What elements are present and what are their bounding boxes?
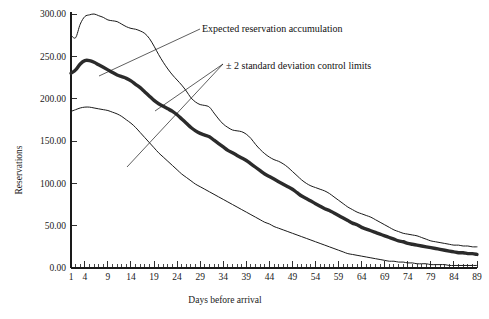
y-axis-tick-labels: 0.0050.00100.00150.00200.00250.00300.00 — [40, 9, 66, 273]
x-tick-label: 34 — [219, 272, 229, 282]
x-tick-label: 69 — [380, 272, 390, 282]
y-tick-label: 50.00 — [45, 221, 67, 231]
x-axis-tick-labels: 14914192429343944495459646974798489 — [69, 272, 482, 282]
x-tick-label: 59 — [334, 272, 344, 282]
x-tick-label: 19 — [149, 272, 159, 282]
control-limits-leader-line-upper — [155, 64, 223, 111]
y-tick-label: 0.00 — [49, 263, 66, 273]
x-tick-label: 49 — [288, 272, 298, 282]
x-tick-label: 14 — [126, 272, 136, 282]
x-tick-label: 84 — [449, 272, 459, 282]
data-series-group — [71, 14, 477, 266]
y-tick-label: 250.00 — [40, 52, 66, 62]
control-limits-leader-line-lower — [127, 64, 223, 167]
y-tick-label: 100.00 — [40, 179, 66, 189]
y-tick-label: 150.00 — [40, 136, 66, 146]
chart-canvas: 0.0050.00100.00150.00200.00250.00300.00 … — [0, 0, 489, 319]
reservation-accumulation-chart: 0.0050.00100.00150.00200.00250.00300.00 … — [0, 0, 489, 319]
y-tick-label: 300.00 — [40, 9, 66, 19]
x-tick-label: 79 — [426, 272, 436, 282]
x-tick-label: 74 — [403, 272, 413, 282]
x-tick-label: 44 — [265, 272, 275, 282]
x-tick-label: 64 — [357, 272, 367, 282]
x-tick-label: 39 — [242, 272, 252, 282]
x-axis-title: Days before arrival — [188, 295, 262, 305]
x-tick-label: 54 — [311, 272, 321, 282]
x-tick-label: 89 — [472, 272, 482, 282]
y-axis-title: Reservations — [14, 145, 24, 194]
expected-annotation-label: Expected reservation accumulation — [202, 23, 343, 34]
plot-axes — [71, 12, 477, 268]
x-tick-label: 9 — [106, 272, 111, 282]
upper-control-limit-line — [71, 14, 477, 247]
x-tick-label: 4 — [82, 272, 87, 282]
annotations-group: Expected reservation accumulation ± 2 st… — [99, 23, 371, 167]
x-axis-ticks — [71, 261, 477, 268]
lower-control-limit-line — [71, 107, 477, 265]
y-axis-ticks — [71, 14, 77, 268]
y-tick-label: 200.00 — [40, 94, 66, 104]
x-tick-label: 24 — [172, 272, 182, 282]
x-tick-label: 1 — [69, 272, 74, 282]
control-limits-annotation-label: ± 2 standard deviation control limits — [226, 60, 371, 71]
expected-annotation-leader-line — [99, 29, 200, 76]
expected-reservation-line — [71, 60, 477, 254]
x-tick-label: 29 — [195, 272, 205, 282]
